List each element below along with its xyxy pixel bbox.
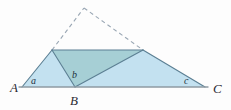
vertex-label-C: C [213, 81, 222, 96]
vertex-label-A: A [9, 80, 18, 95]
geometry-figure: A B C a b c [0, 0, 231, 110]
dashed-edge-right [84, 8, 143, 50]
dashed-edge-left [52, 8, 84, 50]
geometry-canvas: A B C a b c [0, 0, 231, 110]
vertex-label-B: B [70, 93, 78, 108]
angle-label-b: b [72, 69, 77, 80]
angle-label-c: c [184, 75, 189, 86]
angle-label-a: a [31, 75, 36, 86]
